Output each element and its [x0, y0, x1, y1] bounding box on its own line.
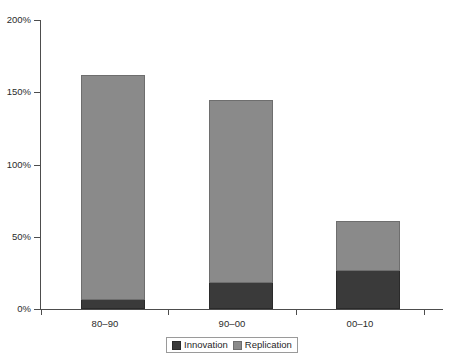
x-axis-tick-3 — [424, 310, 425, 315]
bar-segment-innovation-90-00[interactable] — [209, 283, 273, 309]
x-axis-line — [40, 309, 443, 310]
y-axis-label-0: 0% — [0, 304, 31, 314]
legend-item-replication[interactable]: Replication — [233, 340, 292, 350]
y-axis-label-50: 50% — [0, 232, 31, 242]
x-axis-tick-1 — [168, 310, 169, 315]
bar-stack-90-00[interactable] — [209, 99, 273, 309]
legend-item-innovation[interactable]: Innovation — [172, 340, 228, 350]
y-axis-label-100: 100% — [0, 160, 31, 170]
stacked-bar-chart: 200% 150% 100% 50% 0% 80–90 90–00 00–10 — [0, 0, 449, 362]
legend-label-innovation: Innovation — [184, 340, 228, 350]
bar-segment-replication-00-10[interactable] — [336, 221, 400, 272]
chart-legend: Innovation Replication — [166, 337, 298, 353]
bar-stack-00-10[interactable] — [336, 221, 400, 309]
plot-area — [40, 20, 440, 309]
bar-segment-replication-90-00[interactable] — [209, 100, 273, 284]
bar-segment-innovation-80-90[interactable] — [81, 300, 145, 309]
y-axis-tick-0 — [34, 309, 40, 310]
legend-swatch-innovation-icon — [172, 341, 181, 350]
x-axis-tick-2 — [296, 310, 297, 315]
bar-segment-innovation-00-10[interactable] — [336, 271, 400, 309]
legend-label-replication: Replication — [245, 340, 292, 350]
x-axis-tick-0 — [41, 310, 42, 315]
x-axis-category-label-90-00: 90–00 — [200, 318, 264, 329]
y-axis-label-150: 150% — [0, 87, 31, 97]
bar-stack-80-90[interactable] — [81, 75, 145, 309]
x-axis-category-label-00-10: 00–10 — [328, 318, 392, 329]
legend-swatch-replication-icon — [233, 341, 242, 350]
x-axis-category-label-80-90: 80–90 — [73, 318, 137, 329]
bar-segment-replication-80-90[interactable] — [81, 75, 145, 300]
y-axis-label-200: 200% — [0, 15, 31, 25]
